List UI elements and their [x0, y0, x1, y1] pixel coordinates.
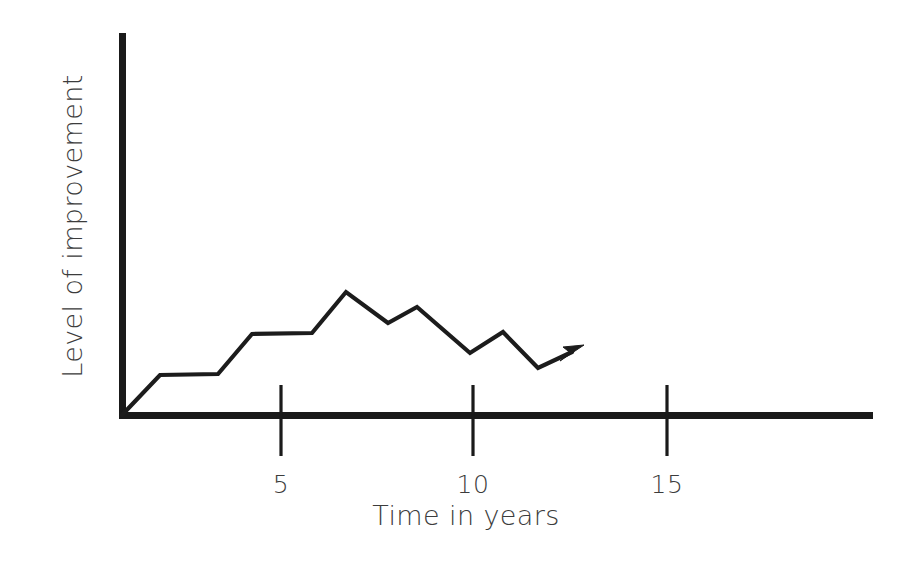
chart-canvas — [0, 0, 908, 580]
trend-arrow-icon — [560, 345, 584, 361]
x-tick-label-5: 5 — [273, 470, 289, 499]
x-tick-label-10: 10 — [457, 470, 490, 499]
data-series-line — [122, 292, 572, 415]
x-axis-title: Time in years — [372, 500, 559, 531]
line-chart-figure: 5 10 15 Time in years Level of improveme… — [0, 0, 908, 580]
y-axis-title: Level of improvement — [57, 74, 88, 378]
x-tick-label-15: 15 — [651, 470, 684, 499]
